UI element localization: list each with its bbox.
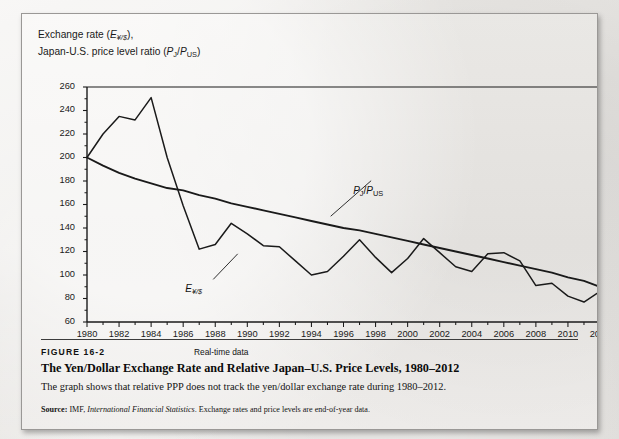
source-body-2: . Exchange rates and price levels are en… [195, 405, 370, 414]
chart-series [87, 98, 597, 302]
figure-caption-block: FIGURE 16-2 Real-time data The Yen/Dolla… [22, 339, 597, 429]
figure-title: The Yen/Dollar Exchange Rate and Relativ… [41, 361, 586, 376]
figure-panel: Exchange rate (E¥/$), Japan-U.S. price l… [21, 13, 598, 430]
source-publication: International Financial Statistics [87, 405, 194, 414]
source-body-1: IMF, [67, 405, 87, 414]
annotation-leader-lines [213, 181, 371, 280]
source-label: Source: [41, 405, 67, 414]
figure-source: Source: IMF, International Financial Sta… [41, 405, 581, 414]
chart-axes [83, 87, 597, 327]
figure-number: FIGURE 16-2 [41, 347, 105, 357]
figure-description: The graph shows that relative PPP does n… [41, 381, 581, 392]
realtime-data-tag: Real-time data [194, 347, 248, 357]
chart-area: Exchange rate (E¥/$), Japan-U.S. price l… [22, 14, 597, 339]
chart-plot [22, 14, 597, 339]
caption-divider [41, 339, 578, 340]
